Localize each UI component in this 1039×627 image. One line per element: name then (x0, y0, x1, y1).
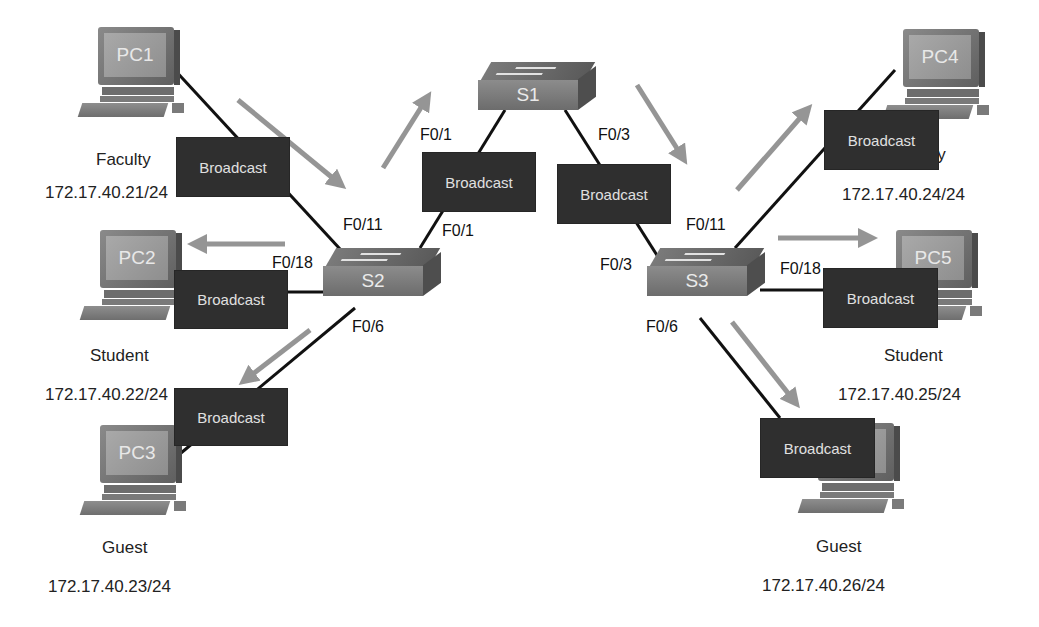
keyboard-icon (80, 306, 171, 320)
pc-base (104, 485, 176, 493)
keyboard-icon (78, 103, 169, 117)
pc-base (102, 87, 174, 95)
pc-base (907, 89, 979, 97)
switch-label: S1 (478, 80, 578, 110)
switch-top (326, 248, 440, 266)
pc4-ip: 172.17.40.24/24 (842, 185, 965, 205)
broadcast-frame-s2-pc3: Broadcast (174, 388, 288, 446)
broadcast-frame-s1-s3: Broadcast (557, 164, 671, 224)
pc-pc1[interactable]: PC1 (80, 27, 190, 119)
switch-top (650, 248, 764, 266)
broadcast-frame-s3-pc6: Broadcast (760, 418, 875, 478)
broadcast-frame-pc1-s2: Broadcast (176, 137, 290, 197)
keyboard-icon (80, 501, 171, 515)
pc6-ip: 172.17.40.26/24 (762, 576, 885, 596)
flow-arrows (195, 85, 870, 402)
monitor-icon: PC1 (98, 27, 174, 85)
monitor-icon: PC3 (100, 425, 176, 483)
pc-base (100, 96, 174, 102)
pc5-role: Student (884, 346, 943, 366)
port-s3-f0-18: F0/18 (780, 260, 821, 278)
mouse-icon (172, 103, 184, 113)
switch-label: S2 (323, 266, 423, 296)
broadcast-frame-s3-pc4: Broadcast (824, 110, 939, 170)
pc-base (820, 492, 894, 498)
mouse-icon (174, 501, 186, 511)
pc-base (905, 98, 979, 104)
pc-base (102, 494, 176, 500)
port-s1-f0-3: F0/3 (598, 126, 630, 144)
port-s2-f0-11: F0/11 (343, 216, 383, 234)
switch-top (481, 62, 595, 80)
pc1-ip: 172.17.40.21/24 (45, 183, 168, 203)
switch-s2[interactable]: S2 (323, 248, 443, 296)
pc1-role: Faculty (96, 150, 151, 170)
broadcast-frame-s2-s1: Broadcast (422, 152, 536, 212)
port-s2-f0-1: F0/1 (442, 222, 474, 240)
pc-label: PC4 (909, 35, 971, 79)
monitor-icon: PC2 (100, 230, 176, 288)
mouse-icon (892, 499, 904, 509)
broadcast-frame-s2-pc2: Broadcast (174, 270, 288, 329)
pc-label: PC2 (106, 236, 168, 280)
port-s3-f0-3: F0/3 (600, 256, 632, 274)
pc-base (822, 483, 894, 491)
switch-s1[interactable]: S1 (478, 62, 598, 110)
pc5-ip: 172.17.40.25/24 (838, 385, 961, 405)
pc-pc4[interactable]: PC4 (885, 29, 995, 121)
port-s3-f0-11: F0/11 (686, 216, 726, 234)
broadcast-frame-s3-pc5: Broadcast (823, 268, 938, 328)
keyboard-icon (798, 499, 889, 513)
pc-label: PC3 (106, 431, 168, 475)
monitor-icon: PC4 (903, 29, 979, 87)
arrow-s1-to-s3 (637, 85, 683, 158)
arrow-s3-to-pc6 (732, 322, 795, 402)
pc3-ip: 172.17.40.23/24 (48, 577, 171, 597)
pc-base (102, 299, 176, 305)
port-s3-f0-6: F0/6 (646, 318, 678, 336)
pc2-role: Student (90, 346, 149, 366)
pc3-role: Guest (102, 538, 147, 558)
port-s2-f0-6: F0/6 (352, 318, 384, 336)
pc2-ip: 172.17.40.22/24 (45, 385, 168, 405)
mouse-icon (970, 306, 982, 316)
mouse-icon (977, 105, 989, 115)
switch-label: S3 (647, 266, 747, 296)
pc-base (104, 290, 176, 298)
pc-label: PC1 (104, 33, 166, 77)
switch-s3[interactable]: S3 (647, 248, 767, 296)
port-s1-f0-1: F0/1 (420, 126, 452, 144)
pc6-role: Guest (816, 537, 861, 557)
